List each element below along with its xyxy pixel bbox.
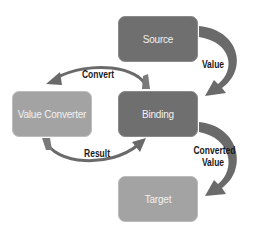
node-binding-label: Binding — [142, 109, 174, 120]
node-source: Source — [118, 16, 198, 62]
edge-label-value: Value — [200, 59, 226, 71]
edge-label-convert: Convert — [81, 69, 115, 81]
node-target: Target — [118, 176, 198, 222]
node-target-label: Target — [145, 194, 172, 205]
edge-label-result: Result — [83, 148, 112, 160]
edge-label-converted-value-line2: Value — [193, 157, 232, 169]
edge-label-converted-value: Converted Value — [193, 145, 232, 169]
node-value-converter-label: Value Converter — [18, 109, 87, 120]
node-binding: Binding — [118, 91, 198, 137]
node-value-converter: Value Converter — [12, 91, 92, 137]
node-source-label: Source — [143, 34, 174, 45]
edge-label-converted: Converted — [193, 145, 232, 157]
